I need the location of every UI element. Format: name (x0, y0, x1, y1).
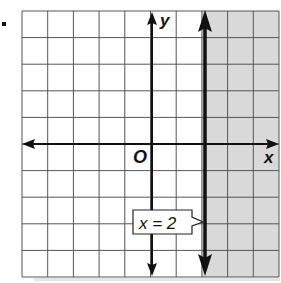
graph-shadow (34, 278, 280, 281)
y-axis-label: y (159, 11, 171, 30)
equation-label: x = 2 (138, 214, 177, 233)
coordinate-graph: y x O x = 2 (0, 0, 281, 283)
x-axis-label: x (263, 148, 275, 167)
origin-label: O (133, 147, 147, 167)
equation-callout: x = 2 (133, 210, 203, 234)
